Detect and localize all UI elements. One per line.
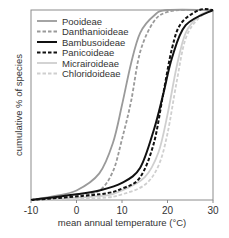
x-tick-label: 20 [162, 205, 174, 216]
x-tick-label: -10 [24, 205, 39, 216]
y-axis-title: cumulative % of species [13, 54, 24, 156]
x-axis-ticks: -100102030 [24, 200, 219, 216]
x-axis-title: mean annual temperature (°C) [58, 217, 186, 228]
x-tick-label: 10 [116, 205, 128, 216]
legend-label-pooideae: Pooideae [62, 16, 102, 27]
cumulative-temperature-chart: -100102030 PooideaeDanthanioideaeBambuso… [0, 0, 229, 238]
legend-label-danthanioideae: Danthanioideae [62, 26, 129, 37]
legend-label-chloridoideae: Chloridoideae [62, 68, 121, 79]
legend-label-micrairoideae: Micrairoideae [62, 58, 119, 69]
x-tick-label: 30 [207, 205, 219, 216]
legend: PooideaeDanthanioideaeBambusoideaePanico… [37, 16, 129, 80]
legend-label-bambusoideae: Bambusoideae [62, 37, 125, 48]
x-tick-label: 0 [74, 205, 80, 216]
legend-label-panicoideae: Panicoideae [62, 47, 114, 58]
